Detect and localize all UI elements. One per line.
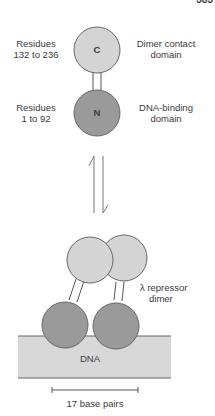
n-domain-description: DNA-binding domain (128, 102, 204, 124)
scale-label: 17 base pairs (45, 398, 145, 409)
monomer-linker (93, 72, 101, 92)
c-domain-description: Dimer contact domain (128, 38, 204, 60)
dimer-n-domain-right (93, 303, 139, 349)
dimer-n-domain-left (42, 302, 88, 348)
n-domain-glyph: N (90, 107, 104, 118)
c-domain-glyph: C (90, 44, 104, 55)
dna-label: DNA (70, 353, 110, 364)
dimer-c-domain-left (67, 237, 113, 283)
scale-bar (52, 387, 138, 393)
c-residues-label: Residues 132 to 236 (8, 38, 64, 60)
equilibrium-arrows-icon (89, 156, 108, 213)
dimer-label: λ repressor dimer (140, 282, 206, 304)
n-residues-label: Residues 1 to 92 (8, 102, 64, 124)
